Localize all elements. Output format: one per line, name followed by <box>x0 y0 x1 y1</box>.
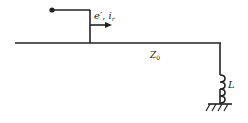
ground-hatch-icon <box>206 104 228 111</box>
wave-label: e′, ir <box>94 10 116 22</box>
transmission-line-diagram: e′, ir Z0 L <box>0 0 248 123</box>
terminal-dot-icon <box>49 7 54 12</box>
arrow-head-icon <box>105 22 112 28</box>
inductor-label: L <box>227 79 235 90</box>
line-impedance-label: Z0 <box>149 50 160 61</box>
